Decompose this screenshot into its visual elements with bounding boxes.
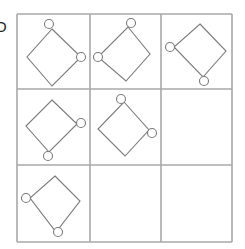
- grid-cell-r1c1: [27, 20, 86, 87]
- circle-marker: [44, 152, 53, 161]
- diamond-shape: [26, 100, 77, 152]
- circle-marker: [117, 95, 126, 104]
- diamond-shape: [98, 102, 149, 156]
- diamond-shape: [174, 24, 226, 77]
- cell-shapes: [22, 19, 227, 237]
- grid-cell-r3c1: [22, 176, 81, 237]
- circle-marker: [77, 119, 86, 128]
- figure-grid: [0, 0, 245, 249]
- circle-marker: [127, 19, 136, 28]
- grid-cell-r1c3: [166, 24, 227, 86]
- circle-marker: [94, 53, 103, 62]
- grid-lines: [17, 14, 232, 242]
- diamond-shape: [98, 27, 150, 81]
- circle-marker: [200, 77, 209, 86]
- diamond-shape: [27, 29, 81, 86]
- grid-cell-r2c2: [98, 95, 157, 157]
- diamond-shape: [30, 176, 80, 232]
- grid-cell-r1c2: [94, 19, 151, 82]
- circle-marker: [22, 194, 31, 203]
- circle-marker: [45, 20, 54, 29]
- circle-marker: [54, 228, 63, 237]
- grid-cell-r2c1: [26, 100, 86, 161]
- circle-marker: [148, 129, 157, 138]
- circle-marker: [77, 53, 86, 62]
- circle-marker: [166, 43, 175, 52]
